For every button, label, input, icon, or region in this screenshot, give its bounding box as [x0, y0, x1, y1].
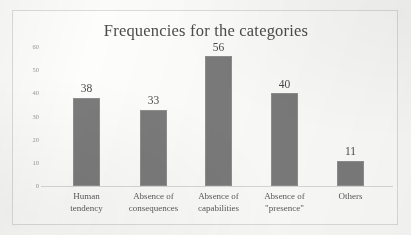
x-axis-category-label-line: "presence" — [246, 203, 324, 215]
y-axis-tick-label: 0 — [19, 183, 39, 190]
bar-group: 33 — [140, 47, 167, 186]
bar-group: 56 — [205, 47, 232, 186]
chart-title: Frequencies for the categories — [13, 21, 399, 41]
x-axis-category-label-line: Others — [312, 191, 390, 203]
y-axis-tick-label: 30 — [19, 113, 39, 120]
chart-frame: Frequencies for the categories 010203040… — [12, 10, 398, 225]
bar-value-label: 56 — [191, 42, 246, 54]
bar-group: 40 — [271, 47, 298, 186]
bar — [271, 93, 298, 186]
bar — [140, 110, 167, 186]
x-axis-category-label: Others — [312, 191, 390, 203]
bar — [205, 56, 232, 186]
bar-value-label: 11 — [323, 146, 378, 158]
bar-group: 11 — [337, 47, 364, 186]
bar-group: 38 — [73, 47, 100, 186]
y-axis-tick-label: 10 — [19, 160, 39, 167]
bar-value-label: 40 — [257, 79, 312, 91]
bar-value-label: 38 — [59, 83, 114, 95]
y-axis-tick-label: 60 — [19, 44, 39, 51]
y-axis: 0102030405060 — [15, 11, 39, 226]
bar-value-label: 33 — [126, 95, 181, 107]
y-axis-tick-label: 20 — [19, 136, 39, 143]
bar — [73, 98, 100, 186]
y-axis-tick-label: 40 — [19, 90, 39, 97]
y-axis-tick-label: 50 — [19, 67, 39, 74]
bar — [337, 161, 364, 186]
